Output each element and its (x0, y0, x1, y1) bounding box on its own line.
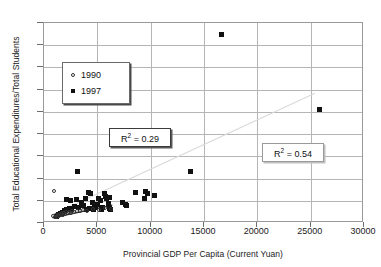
data-point-1997 (145, 191, 150, 196)
r2-value-1997: = 0.54 (284, 149, 312, 159)
r2-value-1990: = 0.29 (131, 134, 159, 144)
plot-area (43, 22, 363, 222)
scatter-chart: Total Educational Expenditures/Total Stu… (0, 0, 381, 267)
r-squared-annotation-1997: R2 = 0.54 (262, 143, 324, 162)
x-tick-label: 30000 (350, 226, 375, 236)
data-point-1990 (52, 189, 56, 193)
data-point-1997 (142, 196, 147, 201)
data-point-1997 (68, 198, 73, 203)
y-axis-title: Total Educational Expenditures/Total Stu… (11, 24, 21, 224)
data-point-1990 (85, 209, 89, 213)
legend-item-1997: 1997 (71, 86, 101, 96)
chart-legend: 1990 1997 (62, 62, 130, 104)
x-tick-label: 20000 (244, 226, 269, 236)
data-point-1997 (95, 202, 100, 207)
data-point-1997 (83, 196, 88, 201)
x-tick-label: 15000 (190, 226, 215, 236)
data-point-1997 (107, 195, 112, 200)
legend-item-1990: 1990 (71, 70, 101, 80)
r-squared-annotation-1990: R2 = 0.29 (109, 128, 171, 147)
data-point-1990 (91, 207, 95, 211)
data-point-1990 (109, 207, 113, 211)
legend-label-1990: 1990 (81, 70, 101, 80)
data-point-1997 (152, 193, 157, 198)
x-tick-label: 10000 (137, 226, 162, 236)
data-point-1997 (124, 203, 129, 208)
x-tick-label: 25000 (297, 226, 322, 236)
x-axis-title: Provincial GDP Per Capita (Current Yuan) (43, 249, 363, 259)
data-point-1997 (106, 201, 111, 206)
filled-square-marker-icon (71, 89, 75, 93)
data-point-1997 (75, 169, 80, 174)
open-circle-marker-icon (71, 73, 75, 77)
x-tick-label: 5000 (86, 226, 106, 236)
data-point-1997 (133, 190, 138, 195)
data-point-1997 (188, 169, 193, 174)
data-point-1997 (317, 107, 322, 112)
data-point-1997 (88, 191, 93, 196)
data-point-1990 (97, 208, 101, 212)
x-tick-label: 0 (40, 226, 45, 236)
data-point-1997 (219, 32, 224, 37)
legend-label-1997: 1997 (81, 86, 101, 96)
